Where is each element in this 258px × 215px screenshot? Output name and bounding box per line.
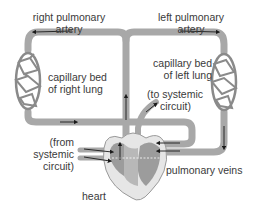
label-to-systemic-circuit: (to systemic circuit) [147, 88, 203, 112]
label-heart: heart [82, 190, 106, 202]
label-capillary-bed-right-lung: capillary bed of right lung [48, 71, 107, 95]
label-from-systemic-circuit: (from systemic circuit) [22, 136, 74, 172]
label-left-pulmonary-artery: left pulmonary artery [150, 11, 232, 35]
label-right-pulmonary-artery: right pulmonary artery [28, 11, 110, 35]
label-capillary-bed-left-lung: capillary bed of left lung [140, 57, 212, 81]
capillary-bed-right-lung [16, 53, 40, 109]
capillary-bed-left-lung [212, 54, 236, 110]
heart-illustration [103, 133, 166, 200]
label-pulmonary-veins: pulmonary veins [166, 164, 242, 176]
